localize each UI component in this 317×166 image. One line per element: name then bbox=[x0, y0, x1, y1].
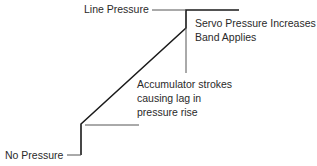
accumulator-label-line3: pressure rise bbox=[137, 106, 198, 119]
accumulator-label-line1: Accumulator strokes bbox=[137, 78, 232, 91]
no-pressure-label: No Pressure bbox=[5, 149, 63, 162]
line-pressure-label: Line Pressure bbox=[84, 3, 149, 16]
servo-label-line2: Band Applies bbox=[195, 31, 256, 44]
accumulator-label-line2: causing lag in bbox=[137, 92, 201, 105]
servo-label-line1: Servo Pressure Increases bbox=[195, 17, 316, 30]
